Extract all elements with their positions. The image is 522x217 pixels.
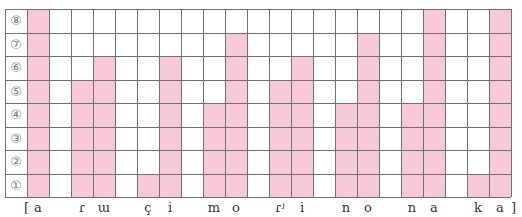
grid-line xyxy=(5,9,511,10)
phoneme-label: ɯ xyxy=(93,200,115,216)
row-label: ⑧ xyxy=(5,9,27,33)
phoneme-label: o xyxy=(357,200,379,216)
grid-line xyxy=(5,33,511,34)
phoneme-label: ɾʲ xyxy=(269,200,291,216)
phoneme-label: m xyxy=(203,200,225,216)
phoneme-label: i xyxy=(159,200,181,216)
row-label: ③ xyxy=(5,127,27,151)
phoneme-label: o xyxy=(225,200,247,216)
filled-bar xyxy=(467,174,489,198)
phoneme-label: ɾ xyxy=(71,200,93,216)
pitch-grid: ⑧⑦⑥⑤④③②① xyxy=(5,9,511,197)
filled-bar xyxy=(357,33,379,198)
phoneme-label: ç xyxy=(137,200,159,216)
close-bracket: ] xyxy=(511,200,516,216)
grid-line xyxy=(5,80,511,81)
grid-line xyxy=(5,56,511,57)
filled-bar xyxy=(137,174,159,198)
phoneme-label: n xyxy=(335,200,357,216)
filled-bar xyxy=(269,80,291,198)
grid-line xyxy=(5,197,511,198)
row-label: ⑥ xyxy=(5,56,27,80)
row-label: ④ xyxy=(5,103,27,127)
filled-bar xyxy=(225,33,247,198)
phoneme-label: i xyxy=(291,200,313,216)
grid-line xyxy=(5,127,511,128)
phoneme-label: a xyxy=(27,200,49,216)
row-label: ① xyxy=(5,174,27,198)
row-label: ② xyxy=(5,150,27,174)
row-label: ⑦ xyxy=(5,33,27,57)
filled-bar xyxy=(71,80,93,198)
row-label: ⑤ xyxy=(5,80,27,104)
grid-line xyxy=(5,174,511,175)
phoneme-label: k xyxy=(467,200,489,216)
phoneme-label: a xyxy=(423,200,445,216)
phoneme-label: a xyxy=(489,200,511,216)
grid-line xyxy=(511,9,512,197)
grid-line xyxy=(5,150,511,151)
phoneme-label: n xyxy=(401,200,423,216)
grid-line xyxy=(5,103,511,104)
